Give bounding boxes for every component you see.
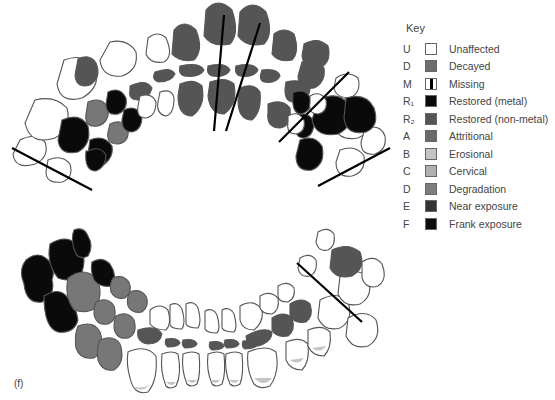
tooth-lower-inner-i1 xyxy=(150,306,170,330)
legend-code: E xyxy=(400,200,425,212)
legend-item: AAttritional xyxy=(400,128,555,146)
tooth-lower-right-pm2-occ xyxy=(110,277,130,299)
legend-label: Missing xyxy=(449,78,485,90)
legend-code: B xyxy=(400,148,425,160)
legend-swatch xyxy=(425,113,437,125)
legend-item: BErosional xyxy=(400,145,555,163)
lower-arch xyxy=(21,229,384,393)
tooth-lower-outer-c xyxy=(127,349,156,393)
tooth-lower-occ-i1 xyxy=(165,339,180,348)
legend-code: F xyxy=(400,218,425,230)
tooth-lower-occ-lc xyxy=(246,330,272,346)
tooth-occ-ur-inc2 xyxy=(154,69,175,82)
legend-code: C xyxy=(400,165,425,177)
legend-label: Near exposure xyxy=(449,200,518,212)
legend-swatch xyxy=(425,183,437,195)
tooth-lower-right-1st-molar-top xyxy=(72,229,91,258)
tooth-lower-left-3rd-molar xyxy=(362,258,384,287)
tooth-lower-outer-lpm2 xyxy=(308,327,330,356)
legend-item: MMissing xyxy=(400,75,555,93)
legend-label: Decayed xyxy=(449,60,490,72)
legend-code: D xyxy=(400,183,425,195)
tooth-lower-right-pm2-inner xyxy=(94,300,115,325)
tooth-inner-ul-i2 xyxy=(238,86,260,120)
tooth-inner-ul-c xyxy=(268,102,291,128)
legend-swatch xyxy=(425,165,437,177)
tooth-lower-inner-i4 xyxy=(205,310,219,333)
legend-swatch xyxy=(425,78,437,90)
tooth-lower-right-pm1-inner xyxy=(114,314,135,339)
tooth-lower-inner-i3 xyxy=(186,303,200,328)
legend-code: A xyxy=(400,130,425,142)
tooth-upper-left-central-incisor xyxy=(238,5,270,45)
legend-code: U xyxy=(400,43,425,55)
tooth-occ-ul4 xyxy=(293,91,311,114)
legend-label: Degradation xyxy=(449,183,506,195)
legend-item: FFrank exposure xyxy=(400,215,555,233)
extraction-line-ur xyxy=(12,148,92,190)
legend-label: Erosional xyxy=(449,148,493,160)
legend-label: Cervical xyxy=(449,165,487,177)
tooth-lower-outer-lpm1 xyxy=(286,339,308,370)
legend-item: R₂Restored (non-metal) xyxy=(400,110,555,128)
tooth-inner-u-i1a xyxy=(178,81,203,116)
tooth-lower-right-pm1-occ xyxy=(127,291,147,313)
legend: Key UUnaffectedDDecayedMMissingR₁Restore… xyxy=(400,22,555,233)
legend-label: Unaffected xyxy=(449,43,500,55)
tooth-lower-right-pm-buccal xyxy=(97,338,122,371)
tooth-inner-u-i1b xyxy=(208,79,235,114)
tooth-upper-right-canine xyxy=(146,34,170,62)
tooth-inner-ur-c xyxy=(138,95,156,118)
legend-swatch xyxy=(425,43,437,55)
tooth-upper-left-3rd-molar xyxy=(336,148,364,176)
legend-swatch xyxy=(425,200,437,212)
legend-swatch xyxy=(425,60,437,72)
tooth-lower-occ-c xyxy=(138,328,162,344)
tooth-upper-left-molar-restored-b xyxy=(296,138,323,170)
legend-title: Key xyxy=(406,22,555,34)
tooth-lower-left-molar-c xyxy=(346,313,378,346)
legend-code: R₁ xyxy=(400,95,425,107)
legend-item: ENear exposure xyxy=(400,198,555,216)
legend-label: Restored (metal) xyxy=(449,95,527,107)
legend-swatch xyxy=(425,148,437,160)
tooth-lower-inner-i2 xyxy=(170,304,184,329)
tooth-inner-ur-molar xyxy=(86,149,106,171)
tooth-lower-inner-i5 xyxy=(222,309,236,332)
tooth-lower-inner-lc xyxy=(240,303,262,330)
tooth-lower-left-tip-molar xyxy=(316,229,334,250)
tooth-lower-occ-i3 xyxy=(209,342,224,351)
tooth-occ-ur8 xyxy=(46,158,71,183)
legend-item: CCervical xyxy=(400,163,555,181)
tooth-occ-ul-inc6 xyxy=(260,70,280,83)
tooth-inner-ur-i2 xyxy=(158,91,174,116)
tooth-occ-ur7 xyxy=(58,117,89,153)
tooth-lower-inner-lpm1 xyxy=(260,293,278,314)
tooth-lower-left-molar-decayed xyxy=(330,246,362,277)
legend-item: DDecayed xyxy=(400,58,555,76)
legend-code: R₂ xyxy=(400,113,425,125)
tooth-upper-left-premolar-2 xyxy=(334,74,359,98)
legend-item: UUnaffected xyxy=(400,40,555,58)
legend-code: D xyxy=(400,60,425,72)
legend-swatch xyxy=(425,95,437,107)
tooth-upper-left-lateral-incisor xyxy=(272,30,297,61)
tooth-upper-right-premolar-1 xyxy=(100,41,136,76)
tooth-lower-occ-i2 xyxy=(182,340,197,349)
tooth-lower-inner-lpm2 xyxy=(278,283,294,302)
legend-label: Frank exposure xyxy=(449,218,522,230)
legend-item: R₁Restored (metal) xyxy=(400,93,555,111)
legend-code: M xyxy=(400,78,425,90)
upper-arch xyxy=(12,3,390,190)
tooth-upper-right-central-incisor xyxy=(204,3,236,45)
legend-label: Restored (non-metal) xyxy=(449,113,548,125)
legend-swatch xyxy=(425,130,437,142)
tooth-occ-ur5 xyxy=(86,100,109,126)
tooth-lower-occ-i4 xyxy=(224,340,239,349)
legend-swatch xyxy=(425,218,437,230)
tooth-upper-left-molar-outer-restored xyxy=(344,96,376,132)
tooth-upper-right-premolar-2 xyxy=(75,57,98,86)
tooth-lower-occ-lpm2 xyxy=(290,300,311,322)
tooth-occ-ur4 xyxy=(106,90,126,114)
tooth-occ-u-inc3 xyxy=(180,65,205,77)
